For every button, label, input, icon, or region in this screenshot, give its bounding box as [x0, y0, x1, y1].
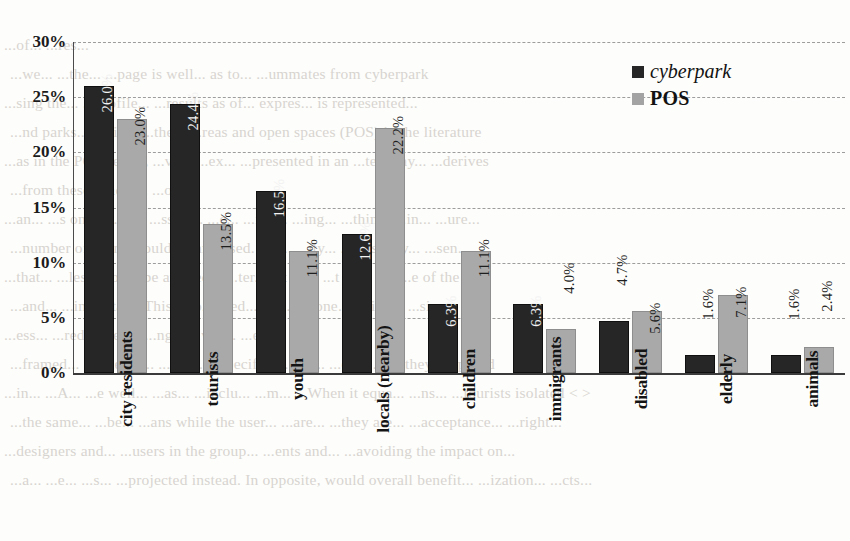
bar-value-label: 22.2%: [390, 116, 407, 155]
bar-group: 1.6%2.4%: [759, 42, 845, 373]
y-tick-label: 5%: [0, 308, 66, 328]
y-tick-label: 0%: [0, 363, 66, 383]
bar: 11.1%: [289, 251, 319, 373]
x-axis-category-labels: city residentstouristsyouthlocals (nearb…: [73, 375, 845, 535]
bar: 1.6%: [771, 355, 801, 373]
bar-value-label: 12.6%: [357, 222, 374, 261]
y-tick-label: 30%: [0, 32, 66, 52]
y-tick-label: 25%: [0, 87, 66, 107]
bar-value-label: 4.7%: [614, 254, 631, 285]
bar: 6.3%: [513, 304, 543, 374]
bar: 16.5%: [256, 191, 286, 373]
chart-legend: cyberpark POS: [632, 58, 731, 112]
bar-group: 24.4%13.5%: [159, 42, 245, 373]
bar-chart: 30%25%20%15%10%5%0% 26.0%23.0%24.4%13.5%…: [0, 0, 850, 541]
bar: 6.3%: [428, 304, 458, 374]
bar-group: 12.6%22.2%: [330, 42, 416, 373]
x-tick-label: youth: [287, 358, 308, 400]
bar-value-label: 26.0%: [99, 74, 116, 113]
x-label-cell: animals: [759, 375, 845, 535]
x-label-cell: elderly: [673, 375, 759, 535]
bar-group: 6.3%11.1%: [416, 42, 502, 373]
x-label-cell: locals (nearby): [330, 375, 416, 535]
x-label-cell: tourists: [159, 375, 245, 535]
bar: 26.0%: [84, 86, 114, 373]
x-tick-label: immigrants: [545, 337, 566, 422]
x-label-cell: immigrants: [502, 375, 588, 535]
x-tick-label: animals: [802, 351, 823, 408]
x-tick-label: elderly: [716, 354, 737, 404]
legend-label-cyberpark: cyberpark: [650, 60, 731, 83]
bar: 1.6%: [685, 355, 715, 373]
bar: 12.6%: [342, 234, 372, 373]
bar-value-label: 6.3%: [528, 295, 545, 326]
bar-value-label: 1.6%: [700, 289, 717, 320]
bar-value-label: 23.0%: [132, 107, 149, 146]
x-label-cell: children: [416, 375, 502, 535]
x-tick-label: children: [459, 349, 480, 409]
bar-group: 16.5%11.1%: [245, 42, 331, 373]
bar-value-label: 16.5%: [271, 178, 288, 217]
x-tick-label: locals (nearby): [373, 325, 394, 432]
bar-value-label: 11.1%: [304, 238, 321, 276]
bar-value-label: 24.4%: [185, 91, 202, 130]
bar-value-label: 6.3%: [443, 295, 460, 326]
bar-value-label: 13.5%: [218, 212, 235, 251]
x-label-cell: city residents: [73, 375, 159, 535]
bar: 4.7%: [599, 321, 629, 373]
legend-entry-pos: POS: [632, 85, 731, 112]
bar-value-label: 7.1%: [733, 286, 750, 317]
bar-group: 26.0%23.0%: [73, 42, 159, 373]
legend-swatch-pos: [632, 93, 644, 105]
bar-value-label: 11.1%: [476, 238, 493, 276]
legend-entry-cyberpark: cyberpark: [632, 58, 731, 85]
bar: 24.4%: [170, 104, 200, 373]
y-tick-label: 15%: [0, 198, 66, 218]
x-label-cell: disabled: [588, 375, 674, 535]
y-tick-label: 10%: [0, 253, 66, 273]
x-tick-label: tourists: [202, 352, 223, 407]
bar-group: 6.3%4.0%: [502, 42, 588, 373]
x-label-cell: youth: [245, 375, 331, 535]
bar-value-label: 5.6%: [647, 303, 664, 334]
x-tick-label: city residents: [116, 331, 137, 427]
legend-label-pos: POS: [650, 87, 690, 110]
bar-value-label: 2.4%: [819, 280, 836, 311]
x-tick-label: disabled: [631, 349, 652, 410]
bar-value-label: 1.6%: [786, 289, 803, 320]
bar-value-label: 4.0%: [561, 262, 578, 293]
y-axis-tick-labels: 30%25%20%15%10%5%0%: [0, 0, 66, 541]
y-tick-label: 20%: [0, 142, 66, 162]
legend-swatch-cyberpark: [632, 66, 644, 78]
